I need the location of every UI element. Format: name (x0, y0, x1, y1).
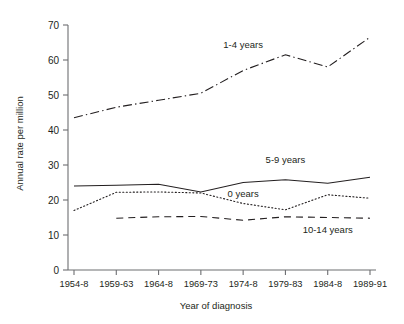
chart-container: 010203040506070 1954-81959-631964-81969-… (0, 0, 404, 324)
series-line (74, 177, 370, 192)
y-tick-label: 30 (48, 160, 60, 171)
y-axis: 010203040506070 (48, 20, 68, 276)
series-line (74, 192, 370, 211)
series-label: 5-9 years (266, 154, 306, 165)
series-line (74, 37, 370, 118)
series-line (116, 216, 370, 220)
x-axis-title: Year of diagnosis (60, 300, 372, 311)
y-tick-label: 0 (53, 265, 59, 276)
x-tick-label: 1969-73 (184, 279, 218, 289)
series-label: 1-4 years (223, 39, 263, 50)
series-label: 0 years (228, 188, 259, 199)
x-axis: 1954-81959-631964-81969-731974-81979-831… (60, 270, 388, 289)
y-tick-label: 50 (48, 90, 60, 101)
x-tick-label: 1964-8 (144, 279, 173, 289)
y-tick-label: 20 (48, 195, 60, 206)
x-tick-label: 1954-8 (60, 279, 89, 289)
y-tick-label: 10 (48, 230, 60, 241)
series-annotations: 1-4 years5-9 years0 years10-14 years (223, 39, 353, 236)
x-tick-label: 1984-8 (313, 279, 342, 289)
x-tick-label: 1959-63 (99, 279, 133, 289)
y-tick-label: 60 (48, 55, 60, 66)
series-label: 10-14 years (303, 224, 353, 235)
y-tick-label: 40 (48, 125, 60, 136)
series-lines (74, 37, 370, 220)
y-tick-label: 70 (48, 20, 60, 31)
line-chart-plot: 010203040506070 1954-81959-631964-81969-… (0, 0, 404, 324)
y-axis-title: Annual rate per million (14, 84, 25, 204)
x-tick-label: 1974-8 (229, 279, 258, 289)
x-tick-label: 1979-83 (268, 279, 302, 289)
x-tick-label: 1989-91 (353, 279, 387, 289)
